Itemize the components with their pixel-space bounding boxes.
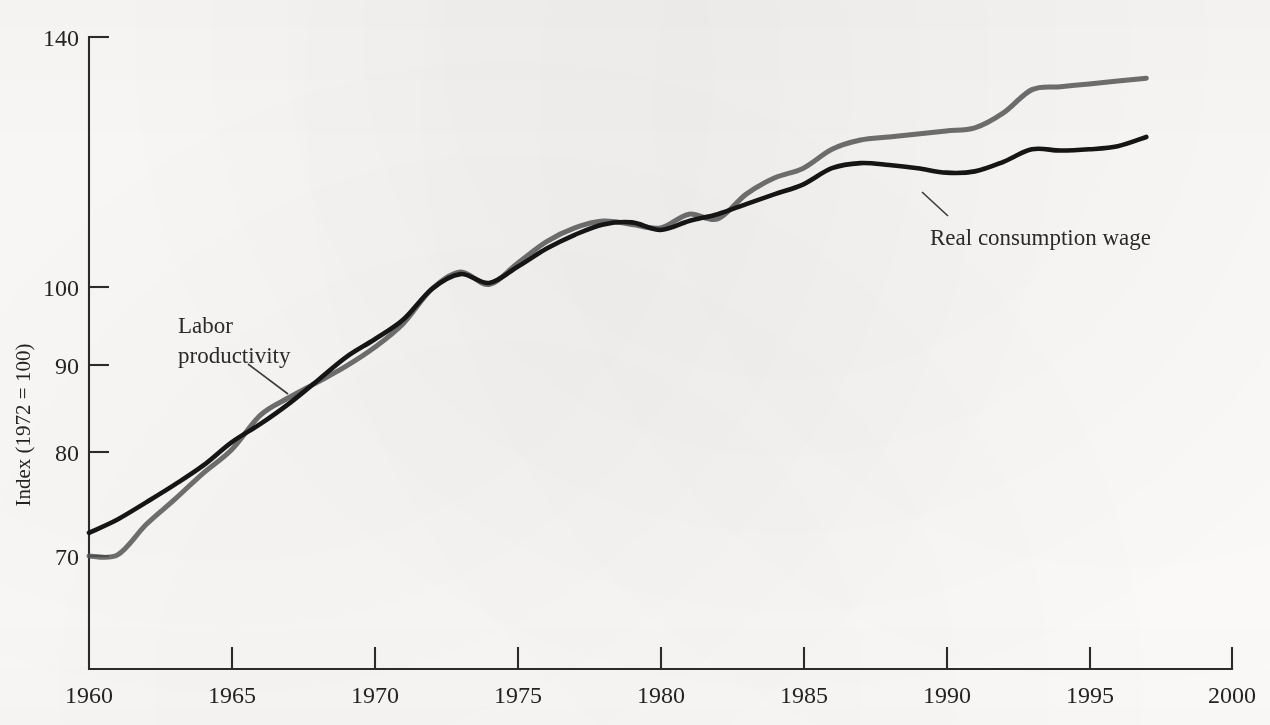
x-tick-label-1990: 1990 xyxy=(923,682,971,708)
y-tick-label-90: 90 xyxy=(55,353,79,379)
x-tick-label-1970: 1970 xyxy=(351,682,399,708)
chart-figure: 140 100 90 80 70 Index (1972 = 100) 1960… xyxy=(0,0,1270,725)
series-line-labor-productivity xyxy=(89,78,1146,557)
x-tick-label-1975: 1975 xyxy=(494,682,542,708)
series-layer xyxy=(89,78,1146,557)
real-consumption-wage-leader-line xyxy=(922,192,948,216)
x-tick-label-1995: 1995 xyxy=(1066,682,1114,708)
y-tick-label-140: 140 xyxy=(43,25,79,51)
x-tick-label-1960: 1960 xyxy=(65,682,113,708)
series-line-real-consumption-wage xyxy=(89,137,1146,533)
y-axis-title: Index (1972 = 100) xyxy=(11,344,35,507)
x-tick-label-1965: 1965 xyxy=(208,682,256,708)
labor-productivity-label-line1: Labor xyxy=(178,313,233,338)
line-chart-plot: 140 100 90 80 70 Index (1972 = 100) 1960… xyxy=(0,0,1270,725)
real-consumption-wage-label: Real consumption wage xyxy=(930,225,1151,250)
labor-productivity-leader-line xyxy=(248,364,288,394)
x-tick-label-2000: 2000 xyxy=(1208,682,1256,708)
y-tick-label-100: 100 xyxy=(43,275,79,301)
y-tick-label-80: 80 xyxy=(55,440,79,466)
y-tick-label-70: 70 xyxy=(55,544,79,570)
x-tick-label-1980: 1980 xyxy=(637,682,685,708)
x-tick-label-1985: 1985 xyxy=(780,682,828,708)
labor-productivity-label-line2: productivity xyxy=(178,343,291,368)
